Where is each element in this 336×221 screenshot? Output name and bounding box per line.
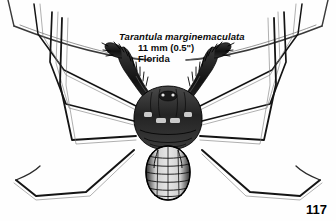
page-number: 117 xyxy=(306,202,327,217)
whip-scorpion-illustration xyxy=(0,0,336,221)
abdomen xyxy=(146,146,190,200)
median-eye-right xyxy=(171,93,174,96)
median-eye-left xyxy=(161,93,164,96)
book-page: single family, Tarantulidae xyxy=(0,0,336,221)
antenniform-legs xyxy=(8,0,328,60)
cephalothorax xyxy=(134,86,202,150)
